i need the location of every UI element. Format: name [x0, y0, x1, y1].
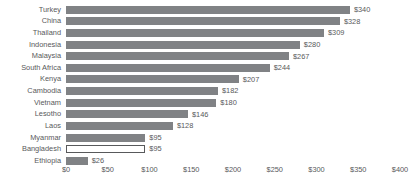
bar-value-label: $309 — [328, 29, 344, 36]
bar — [66, 29, 324, 37]
x-tick-label: $0 — [62, 166, 70, 173]
bar-row: Turkey$340 — [66, 4, 400, 16]
x-tick-label: $350 — [350, 166, 366, 173]
bar-group: $207 — [66, 75, 259, 83]
bar — [66, 64, 270, 72]
bar — [66, 52, 289, 60]
bar — [66, 157, 88, 165]
category-label: Vietnam — [34, 99, 61, 106]
category-label: Malaysia — [32, 53, 61, 60]
bar-group: $280 — [66, 41, 320, 49]
bar-value-label: $26 — [92, 157, 104, 164]
bar-row: China$328 — [66, 16, 400, 28]
bar-group: $340 — [66, 6, 370, 14]
plot-area: Turkey$340China$328Thailand$309Indonesia… — [66, 4, 400, 156]
bar-row: Malaysia$267 — [66, 50, 400, 62]
category-label: China — [42, 18, 61, 25]
bar — [66, 6, 350, 14]
bar-value-label: $244 — [274, 64, 290, 71]
bar-row: Bangladesh$95 — [66, 143, 400, 155]
x-tick-label: $200 — [225, 166, 241, 173]
bar-row: Lesotho$146 — [66, 108, 400, 120]
bar — [66, 122, 173, 130]
bar-row: Cambodia$182 — [66, 85, 400, 97]
category-label: Indonesia — [29, 41, 61, 48]
bar — [66, 134, 145, 142]
bar-value-label: $95 — [149, 134, 161, 141]
bar-value-label: $340 — [354, 6, 370, 13]
bar-row: Laos$128 — [66, 120, 400, 132]
category-label: Kenya — [40, 76, 61, 83]
category-label: Lesotho — [35, 111, 61, 118]
bar — [66, 87, 218, 95]
x-tick-label: $400 — [392, 166, 408, 173]
bar-group: $244 — [66, 64, 290, 72]
x-tick-label: $150 — [183, 166, 199, 173]
bar — [66, 110, 188, 118]
bar-row: Thailand$309 — [66, 27, 400, 39]
bar — [66, 145, 145, 153]
bar-group: $267 — [66, 52, 309, 60]
bar-group: $95 — [66, 134, 162, 142]
bar-group: $146 — [66, 110, 208, 118]
bar-value-label: $207 — [243, 76, 259, 83]
category-label: South Africa — [21, 64, 61, 71]
x-axis: $0$50$100$150$200$250$300$350$400 — [66, 166, 400, 180]
bar-row: South Africa$244 — [66, 62, 400, 74]
bar-value-label: $95 — [149, 145, 161, 152]
bar-group: $26 — [66, 157, 104, 165]
bar-row: Kenya$207 — [66, 74, 400, 86]
x-tick-label: $300 — [308, 166, 324, 173]
bar-chart: Turkey$340China$328Thailand$309Indonesia… — [0, 0, 418, 190]
bar-group: $95 — [66, 145, 162, 153]
x-tick-label: $50 — [102, 166, 114, 173]
bar-row: Indonesia$280 — [66, 39, 400, 51]
x-tick-label: $100 — [141, 166, 157, 173]
category-label: Myanmar — [30, 134, 61, 141]
bar-group: $309 — [66, 29, 344, 37]
bar-row: Myanmar$95 — [66, 132, 400, 144]
category-label: Bangladesh — [22, 145, 61, 152]
bar — [66, 41, 300, 49]
bar-group: $180 — [66, 99, 237, 107]
bar-row: Vietnam$180 — [66, 97, 400, 109]
bar-value-label: $182 — [222, 87, 238, 94]
bar-value-label: $267 — [293, 53, 309, 60]
category-label: Turkey — [39, 6, 61, 13]
category-label: Ethiopia — [34, 157, 61, 164]
category-label: Laos — [45, 122, 61, 129]
bar-group: $128 — [66, 122, 193, 130]
bar — [66, 17, 340, 25]
category-label: Cambodia — [27, 87, 61, 94]
bar-value-label: $328 — [344, 18, 360, 25]
x-tick-label: $250 — [267, 166, 283, 173]
bar-value-label: $280 — [304, 41, 320, 48]
bar-group: $328 — [66, 17, 360, 25]
bar-group: $182 — [66, 87, 238, 95]
bar-value-label: $128 — [177, 122, 193, 129]
bar-value-label: $180 — [220, 99, 236, 106]
bar — [66, 75, 239, 83]
category-label: Thailand — [33, 29, 61, 36]
bar — [66, 99, 216, 107]
bar-value-label: $146 — [192, 111, 208, 118]
